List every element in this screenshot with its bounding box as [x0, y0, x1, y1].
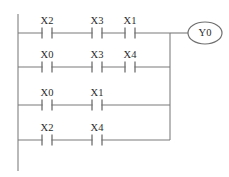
contact-gap	[43, 103, 52, 107]
contact-label-x1-r3: X1	[91, 87, 104, 98]
contact-gap	[43, 31, 52, 35]
contact-label-x1-r1: X1	[124, 15, 137, 26]
contact-x2-r1[interactable]	[42, 28, 52, 39]
contact-x4-r4[interactable]	[92, 135, 102, 146]
contact-label-x2-r4: X2	[41, 122, 54, 133]
contact-gap	[126, 31, 135, 35]
contact-x2-r4[interactable]	[42, 135, 52, 146]
contact-label-x3-r1: X3	[91, 15, 104, 26]
contact-label-x2-r1: X2	[41, 15, 54, 26]
contact-label-x0-r2: X0	[41, 49, 54, 60]
contact-gap	[126, 65, 135, 69]
contact-x1-r3[interactable]	[92, 100, 102, 111]
output-coil-group: Y0	[170, 22, 222, 44]
contact-gap	[93, 103, 102, 107]
contact-gap	[43, 138, 52, 142]
contact-label-x3-r2: X3	[91, 49, 104, 60]
contact-x1-r1[interactable]	[125, 28, 135, 39]
rung-3	[18, 100, 170, 111]
output-coil-label: Y0	[199, 27, 212, 38]
contact-x3-r2[interactable]	[92, 62, 102, 73]
rung-2	[18, 62, 170, 73]
contact-label-x4-r2: X4	[124, 49, 138, 60]
contact-gap	[93, 31, 102, 35]
contact-x0-r2[interactable]	[42, 62, 52, 73]
rung-4	[18, 135, 170, 146]
contact-x0-r3[interactable]	[42, 100, 52, 111]
rung-1	[18, 28, 170, 39]
contact-gap	[43, 65, 52, 69]
contact-gap	[93, 65, 102, 69]
contact-label-x0-r3: X0	[41, 87, 54, 98]
contact-x3-r1[interactable]	[92, 28, 102, 39]
contact-x4-r2[interactable]	[125, 62, 135, 73]
contact-gap	[93, 138, 102, 142]
ladder-diagram-canvas: Y0 X2X3X1X0X3X4X0X1X2X4	[0, 0, 229, 177]
contact-label-x4-r4: X4	[91, 122, 105, 133]
ladder-diagram: Y0 X2X3X1X0X3X4X0X1X2X4	[0, 0, 229, 177]
